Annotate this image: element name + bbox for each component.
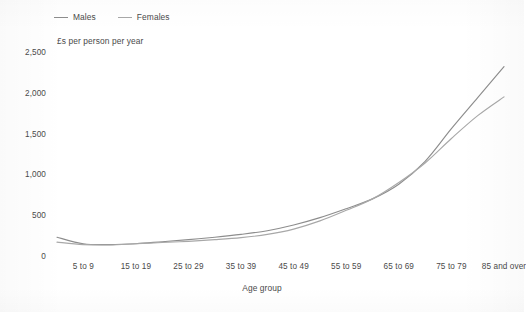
y-axis-tick-label: 2,000 [25,88,46,97]
legend-item-males[interactable]: Males [54,13,96,21]
series-line-males [57,67,504,245]
legend-label-males: Males [73,13,96,21]
y-axis-tick-labels: 05001,0001,5002,0002,500 [0,52,52,256]
x-axis-tick-label: 25 to 29 [173,262,203,271]
series-layer [57,52,504,256]
value-axis-title: £s per person per year [57,36,143,46]
y-axis-tick-label: 0 [41,252,46,261]
x-axis-tick-label: 65 to 69 [384,262,414,271]
x-axis-tick-labels: 5 to 915 to 1925 to 2935 to 3945 to 4955… [57,262,504,276]
series-line-females [57,97,504,245]
legend-line-swatch-icon [54,17,68,18]
legend-item-females[interactable]: Females [118,13,170,21]
x-axis-tick-label: 45 to 49 [278,262,308,271]
y-axis-tick-label: 500 [32,211,46,220]
x-axis-tick-label: 85 and over [482,262,526,271]
legend-label-females: Females [137,13,170,21]
y-axis-tick-label: 1,000 [25,170,46,179]
x-axis-tick-label: 75 to 79 [436,262,466,271]
x-axis-tick-label: 55 to 59 [331,262,361,271]
y-axis-tick-label: 1,500 [25,129,46,138]
y-axis-tick-label: 2,500 [25,48,46,57]
x-axis-tick-label: 15 to 19 [121,262,151,271]
category-axis-title: Age group [0,283,524,293]
x-axis-tick-label: 35 to 39 [226,262,256,271]
chart-legend: Males Females [54,10,170,24]
legend-line-swatch-icon [118,17,132,18]
plot-area [57,52,504,256]
x-axis-tick-label: 5 to 9 [73,262,94,271]
